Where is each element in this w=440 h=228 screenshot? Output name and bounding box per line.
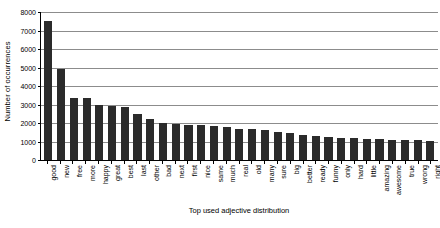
x-axis-label-slot: same [207,165,220,203]
x-axis-tick-slot [220,160,233,164]
bar [95,105,103,160]
bar-slot [360,12,373,160]
x-axis-label-slot: many [258,165,271,203]
x-axis-tick-slot [92,160,105,164]
bar [223,127,231,160]
x-axis-tick-slot [271,160,284,164]
bar [70,98,78,160]
bar [133,114,141,160]
x-axis-tick-slot [399,160,412,164]
bar [286,133,294,160]
x-axis-tick-slot [156,160,169,164]
bar [159,123,167,160]
y-axis-tick-label: 8000 [20,9,36,16]
x-axis-tick-mark [187,160,188,164]
x-axis-label-slot: wrong [412,165,425,203]
bar-slot [169,12,182,160]
y-axis-title-label: Number of occurrences [3,41,12,121]
x-axis-label-slot: nice [194,165,207,203]
bar [299,135,307,160]
x-axis-title: Top used adjective distribution [40,206,438,215]
x-axis-tick-mark [85,160,86,164]
x-axis-tick-slot [118,160,131,164]
x-axis-tick-slot [79,160,92,164]
x-axis-tick-mark [405,160,406,164]
bar [375,139,383,160]
x-axis-tick-slot [246,160,259,164]
bar-slot [157,12,170,160]
x-axis-tick-mark [239,160,240,164]
x-axis-tick-slot [386,160,399,164]
x-axis-tick-slot [297,160,310,164]
x-axis-tick-mark [60,160,61,164]
x-axis-tick-label: right [434,165,440,179]
x-axis-label-slot: great [105,165,118,203]
x-axis-tick-slot [412,160,425,164]
x-axis-label-slot: free [67,165,80,203]
bar-slot [373,12,386,160]
x-axis-label-slot: last [130,165,143,203]
plot-area [40,12,438,161]
x-axis-tick-labels: goodnewfreemorehappygreatbestlastotherba… [40,165,438,203]
x-axis-tick-slot [322,160,335,164]
x-axis-tick-slot [361,160,374,164]
x-axis-label-slot: sure [271,165,284,203]
x-axis-tick-mark [111,160,112,164]
bar-slot [80,12,93,160]
x-axis-tick-mark [200,160,201,164]
bar [324,137,332,160]
x-axis-tick-mark [175,160,176,164]
x-axis-tick-marks [40,160,438,164]
y-axis-tick-label: 5000 [20,64,36,71]
bar [83,98,91,160]
x-axis-tick-slot [373,160,386,164]
bar-slot [258,12,271,160]
bar [210,126,218,160]
bar-slot [182,12,195,160]
x-axis-tick-mark [213,160,214,164]
x-axis-label-slot: funny [322,165,335,203]
bar [414,140,422,160]
x-axis-label-slot: hard [348,165,361,203]
bar-slot [309,12,322,160]
x-axis-tick-slot [54,160,67,164]
bar-slot [144,12,157,160]
bar [146,119,154,160]
bar-slot [424,12,437,160]
bar-slot [42,12,55,160]
x-axis-tick-mark [162,160,163,164]
bar-slot [322,12,335,160]
x-axis-tick-mark [379,160,380,164]
y-axis-title: Number of occurrences [0,0,14,162]
bar-slot [67,12,80,160]
x-axis-label-slot: better [297,165,310,203]
bar-slot [284,12,297,160]
x-axis-tick-mark [341,160,342,164]
x-axis-tick-mark [251,160,252,164]
x-axis-tick-mark [47,160,48,164]
x-axis-tick-slot [105,160,118,164]
y-axis-tick-label: 4000 [20,83,36,90]
bar [337,138,345,160]
bar [248,129,256,160]
x-axis-label-slot: other [143,165,156,203]
x-axis-tick-mark [366,160,367,164]
x-axis-tick-slot [424,160,437,164]
x-axis-tick-slot [335,160,348,164]
x-axis-tick-mark [430,160,431,164]
y-axis-tick-label: 6000 [20,46,36,53]
x-axis-label-slot: right [424,165,437,203]
y-axis-tick-label: 7000 [20,27,36,34]
bar [312,136,320,160]
x-axis-tick-slot [194,160,207,164]
bar-slot [131,12,144,160]
bar-slot [411,12,424,160]
x-axis-tick-slot [258,160,271,164]
bar [274,132,282,160]
x-axis-tick-mark [354,160,355,164]
x-axis-tick-mark [290,160,291,164]
bar [388,140,396,160]
x-axis-tick-slot [143,160,156,164]
x-axis-label-slot: good [41,165,54,203]
x-axis-label-slot: much [220,165,233,203]
